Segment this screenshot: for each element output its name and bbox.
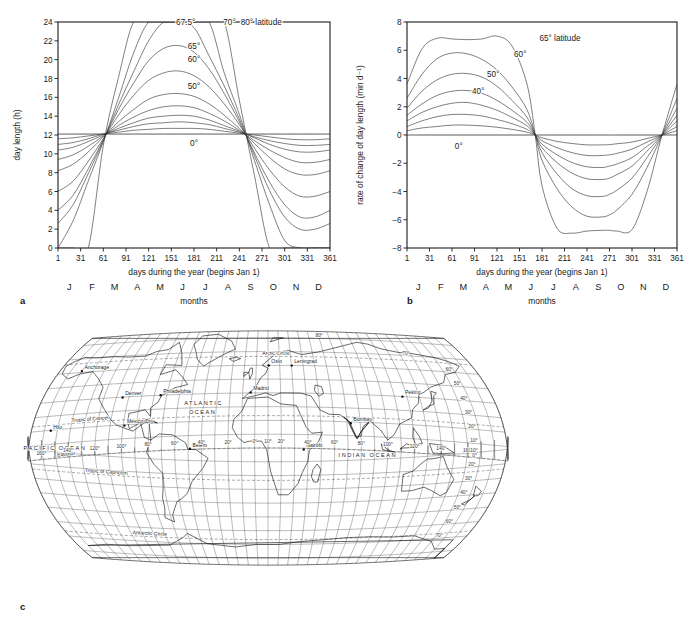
longitude-label-11: 40°: [304, 440, 311, 445]
x-tick-label: 211: [558, 254, 571, 263]
x-axis-label: days during the year (begins Jan 1): [128, 267, 259, 277]
y-tick-label: 0: [397, 131, 402, 140]
panel-a-day-length: 0246810121416182022241316191121151181211…: [0, 0, 345, 320]
x-tick-label: 151: [164, 254, 178, 263]
latitude-label-5: 30°: [465, 410, 472, 415]
x-tick-label: 31: [76, 254, 86, 263]
x-tick-label: 301: [625, 254, 639, 263]
curve-label: 65° latitude: [539, 34, 581, 43]
ocean-label-atlantic: ATLANTIC: [184, 400, 223, 406]
curve-label: 0°: [455, 142, 463, 151]
month-label-O-9: O: [270, 282, 277, 292]
city-label-madrid: Madrid: [253, 385, 269, 391]
latitude-label-11: 30°: [465, 476, 472, 481]
curve-label: 0°: [190, 139, 198, 148]
x-tick-label: 181: [187, 254, 201, 263]
longitude-label-0: 160°: [36, 451, 46, 456]
month-label-J-5: J: [528, 282, 533, 292]
city-dot-oslo: [268, 364, 270, 366]
city-dot-mexico-city: [123, 424, 125, 426]
curve-label: 80° latitude: [241, 18, 283, 27]
panel-letter: b: [407, 295, 413, 306]
y-tick-label: 18: [43, 75, 53, 84]
city-dot-bombay: [350, 422, 352, 424]
x-tick-label: 271: [255, 254, 269, 263]
latitude-label-4: 40°: [460, 396, 467, 401]
x-tick-label: 1: [405, 254, 410, 263]
latitude-label-10: 20°: [468, 462, 475, 467]
month-label-S-8: S: [248, 282, 254, 292]
y-axis-label: rate of change of day length (min d⁻¹): [355, 65, 365, 205]
month-label-N-10: N: [640, 282, 647, 292]
city-dot-anchorage: [81, 370, 83, 372]
curve-label: 60°: [514, 50, 526, 59]
meridian--80: [148, 333, 180, 563]
x-tick-label: 61: [99, 254, 109, 263]
special-line-label-antarctic-circle: Antarctic Circle: [133, 529, 168, 537]
y-tick-label: 10: [43, 150, 53, 159]
latitude-label-8: 0°: [472, 453, 477, 458]
city-dot-belem: [189, 448, 191, 450]
y-tick-label: 12: [43, 131, 53, 140]
latitude-label-6: 20°: [468, 424, 475, 429]
month-label-A-3: A: [134, 282, 141, 292]
month-label-A-7: A: [225, 282, 232, 292]
x-tick-label: 241: [232, 254, 246, 263]
longitude-label-7: 20°: [224, 440, 231, 445]
curve-70-deg: [58, 18, 330, 248]
city-dot-nairobi: [303, 448, 305, 450]
longitude-label-9: 10°: [264, 439, 271, 444]
city-label-oslo: Oslo: [271, 358, 282, 364]
y-axis-label: day length (h): [12, 109, 22, 160]
city-label-leningrad: Leningrad: [294, 358, 317, 364]
x-axis-label: days during the year (begins Jan 1): [476, 267, 607, 277]
latitude-label-12: 40°: [460, 490, 467, 495]
curve-65-deg: [58, 45, 330, 218]
ocean-label-pacific-ocean: PACIFIC OCEAN: [24, 445, 87, 451]
y-tick-label: 20: [43, 56, 53, 65]
latitude-label-7: 10°: [470, 438, 477, 443]
month-label-D-11: D: [315, 282, 322, 292]
x-tick-label: 31: [425, 254, 435, 263]
coastline-madagascar: [311, 464, 321, 482]
panel-letter: a: [20, 295, 26, 306]
curve-label: 65°: [188, 42, 200, 51]
months-axis-label: months: [180, 296, 207, 306]
x-tick-label: 91: [470, 254, 480, 263]
y-tick-label: 0: [48, 244, 53, 253]
x-tick-label: 271: [603, 254, 617, 263]
curve-label: 50°: [487, 70, 499, 79]
latitude-label-0: 80°: [316, 333, 323, 338]
x-tick-label: 361: [670, 254, 684, 263]
y-tick-label: 2: [48, 225, 53, 234]
curve-label: 60°: [188, 55, 200, 64]
x-tick-label: 91: [121, 254, 131, 263]
month-label-S-8: S: [595, 282, 601, 292]
y-tick-label: 2: [397, 103, 402, 112]
curve-group: [407, 36, 677, 234]
city-dot-denver: [121, 396, 123, 398]
months-axis-label: months: [528, 296, 555, 306]
special-line-label-arctic-circle: Arctic Circle: [262, 350, 289, 356]
longitude-label-6: 40°: [198, 440, 205, 445]
y-tick-label: −6: [392, 216, 402, 225]
city-label-peking: Peking: [405, 389, 421, 395]
panel-b-rate-of-change: −8−6−4−202468131619112115118121124127130…: [345, 0, 691, 320]
coastline-caspian: [314, 385, 323, 396]
longitude-label-5: 60°: [171, 441, 178, 446]
y-tick-label: 8: [48, 169, 53, 178]
month-label-A-7: A: [573, 282, 580, 292]
special-line-label-tropic-of-capricorn: Tropic of Capricorn: [85, 467, 129, 476]
latitude-label-1: 70°: [402, 351, 409, 356]
month-label-O-9: O: [617, 282, 624, 292]
x-tick-label: 151: [513, 254, 527, 263]
coastline-ireland: [244, 372, 249, 376]
city-dot-hilo: [50, 430, 52, 432]
ocean-label-ocean: OCEAN: [189, 409, 216, 415]
month-label-F-1: F: [89, 282, 95, 292]
month-label-D-11: D: [662, 282, 669, 292]
y-tick-label: 14: [43, 112, 53, 121]
city-dot-leningrad: [291, 364, 293, 366]
meridian--20: [228, 331, 239, 565]
month-label-A-3: A: [483, 282, 490, 292]
